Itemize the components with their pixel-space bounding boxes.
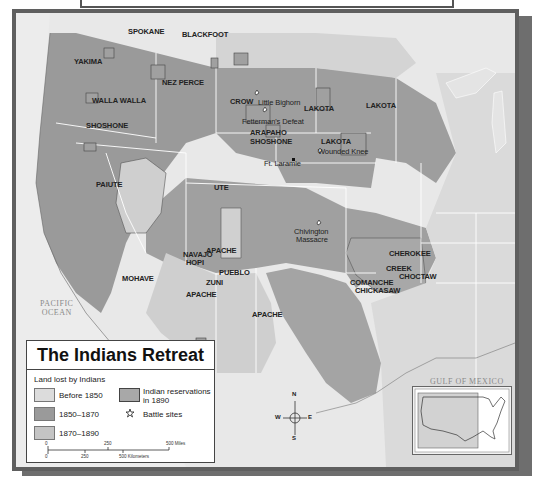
- label-yakima: YAKIMA: [74, 57, 102, 66]
- caption-box: [80, 0, 454, 8]
- label-chickasaw: CHICKASAW: [355, 286, 400, 295]
- label-fettermans-defeat: Fetterman's Defeat: [242, 117, 304, 126]
- label-pueblo: PUEBLO: [219, 268, 250, 277]
- label-hopi: HOPI: [186, 258, 204, 267]
- inset-highlight-region: [418, 393, 478, 448]
- scale-miles-250: 250: [104, 441, 112, 446]
- pacific-label-line1: PACIFIC: [40, 299, 73, 308]
- scale-km-0: 0: [45, 454, 48, 459]
- label-lakota-2: LAKOTA: [366, 101, 396, 110]
- label-arapaho: ARAPAHO: [250, 128, 287, 137]
- scale-miles-0: 0: [45, 441, 48, 446]
- compass-w: W: [275, 414, 281, 420]
- compass-n: N: [292, 391, 296, 397]
- pacific-label-line2: OCEAN: [40, 308, 73, 317]
- inset-us-map: [412, 386, 512, 455]
- label-chivington-2: Massacre: [296, 235, 328, 244]
- label-cherokee: CHEROKEE: [389, 249, 431, 258]
- scale-bar: [27, 341, 214, 462]
- label-walla-walla: WALLA WALLA: [92, 96, 146, 105]
- scale-km-250: 250: [81, 454, 89, 459]
- label-apache-3: APACHE: [252, 310, 283, 319]
- label-choctaw: CHOCTAW: [399, 272, 437, 281]
- legend: The Indians Retreat Land lost by Indians…: [26, 340, 215, 463]
- label-shoshone: SHOSHONE: [86, 121, 128, 130]
- compass-e: E: [308, 414, 312, 420]
- label-apache-2: APACHE: [186, 290, 217, 299]
- label-mohave: MOHAVE: [122, 274, 154, 283]
- label-nez-perce: NEZ PERCE: [162, 78, 204, 87]
- label-little-bighorn: Little Bighorn: [258, 98, 300, 107]
- scale-km-500: 500 Kilometers: [119, 454, 149, 459]
- label-ute: UTE: [214, 183, 229, 192]
- label-zuni: ZUNI: [206, 278, 223, 287]
- label-shoshone-2: SHOSHONE: [250, 137, 292, 146]
- label-lakota-3: LAKOTA: [321, 137, 351, 146]
- label-paiute: PAIUTE: [96, 180, 122, 189]
- label-lakota-1: LAKOTA: [304, 104, 334, 113]
- pacific-ocean-label: PACIFIC OCEAN: [40, 299, 73, 317]
- gulf-of-mexico-label: GULF OF MEXICO: [430, 377, 504, 386]
- label-crow: CROW: [230, 97, 253, 106]
- scale-miles-500: 500 Miles: [166, 441, 185, 446]
- compass-s: S: [292, 435, 296, 441]
- label-spokane: SPOKANE: [128, 27, 164, 36]
- label-blackfoot: BLACKFOOT: [182, 30, 228, 39]
- inset-us-outline: [413, 387, 511, 454]
- compass-rose: N S W E: [275, 393, 315, 443]
- label-ft-laramie: Ft. Laramie: [264, 159, 301, 168]
- label-wounded-knee: Wounded Knee: [318, 147, 368, 156]
